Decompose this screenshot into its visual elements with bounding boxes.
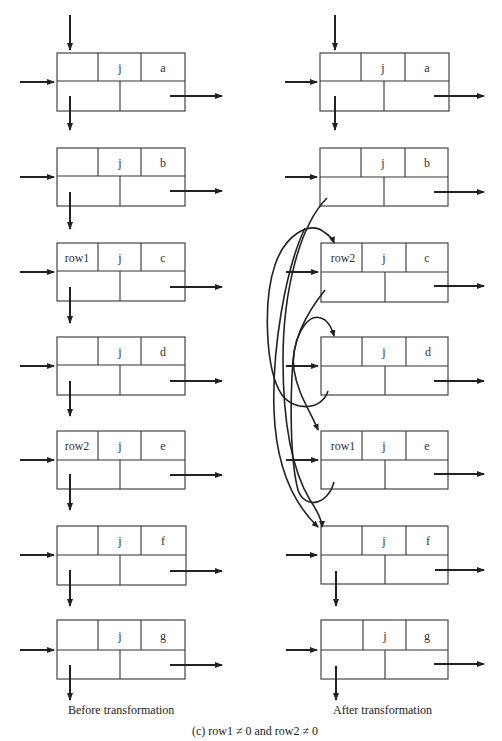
col-cell: j — [380, 61, 384, 75]
before-label: Before transformation — [68, 703, 174, 717]
node-f-before: j f — [57, 526, 186, 585]
relink-curve-d — [267, 228, 334, 407]
value-cell: d — [425, 345, 431, 359]
figure-caption: (c) row1 ≠ 0 and row2 ≠ 0 — [192, 724, 318, 738]
col-cell: j — [117, 534, 121, 548]
linked-list-diagram: j a j b row1 j c — [0, 0, 502, 741]
node-c-after: row2 j c — [321, 243, 448, 302]
relink-curve-b — [283, 198, 327, 527]
before-column: j a j b row1 j c — [20, 15, 222, 717]
col-cell: j — [382, 629, 386, 643]
node-b-before: j b — [57, 148, 185, 206]
value-cell: a — [424, 61, 430, 75]
after-label: After transformation — [333, 703, 432, 717]
col-cell: j — [381, 345, 385, 359]
node-e-after: row1 j e — [321, 431, 448, 489]
value-cell: c — [160, 251, 165, 265]
row-cell: row1 — [331, 439, 356, 453]
node-b-after: j b — [320, 148, 448, 206]
node-f-after: j f — [321, 526, 448, 584]
row-cell: row2 — [331, 251, 356, 265]
col-cell: j — [381, 251, 385, 265]
value-cell: g — [424, 629, 430, 643]
value-cell: a — [160, 61, 166, 75]
col-cell: j — [381, 439, 385, 453]
node-g-before: j g — [57, 620, 185, 679]
row-cell: row2 — [65, 439, 90, 453]
relink-curve-c — [293, 290, 325, 430]
col-cell: j — [117, 61, 121, 75]
value-cell: e — [160, 439, 165, 453]
col-cell: j — [117, 629, 121, 643]
node-c-before: row1 j c — [57, 243, 185, 301]
col-cell: j — [380, 156, 384, 170]
node-g-after: j g — [321, 620, 448, 679]
value-cell: e — [424, 439, 429, 453]
col-cell: j — [117, 156, 121, 170]
node-a-after: j a — [320, 53, 449, 111]
value-cell: g — [160, 629, 166, 643]
row-cell: row1 — [65, 251, 90, 265]
after-column: j a j b row2 j c — [267, 15, 484, 717]
col-cell: j — [381, 534, 385, 548]
node-a-before: j a — [57, 53, 185, 111]
col-cell: j — [117, 251, 121, 265]
value-cell: d — [160, 345, 166, 359]
col-cell: j — [117, 345, 121, 359]
node-d-before: j d — [57, 337, 185, 395]
value-cell: b — [160, 156, 166, 170]
node-d-after: j d — [321, 337, 448, 395]
col-cell: j — [117, 439, 121, 453]
value-cell: f — [161, 534, 165, 548]
value-cell: c — [424, 251, 429, 265]
value-cell: b — [424, 156, 430, 170]
node-e-before: row2 j e — [57, 431, 185, 489]
value-cell: f — [426, 534, 430, 548]
